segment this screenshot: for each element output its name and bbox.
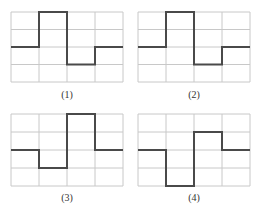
waveform-grid-4: [138, 114, 250, 186]
panel-1: [11, 12, 123, 82]
waveform-grid-1: [11, 12, 123, 82]
panel-3-label: (3): [47, 192, 87, 203]
waveform-grid-2: [138, 12, 250, 82]
waveform-grid-3: [11, 114, 123, 186]
panel-4: [138, 114, 250, 186]
panel-3: [11, 114, 123, 186]
square-wave: [138, 132, 250, 186]
panel-4-label: (4): [174, 192, 214, 203]
panel-2: [138, 12, 250, 82]
square-wave: [11, 114, 123, 168]
panel-1-label: (1): [47, 89, 87, 100]
square-wave: [138, 12, 250, 65]
square-wave: [11, 12, 123, 65]
panel-2-label: (2): [174, 89, 214, 100]
